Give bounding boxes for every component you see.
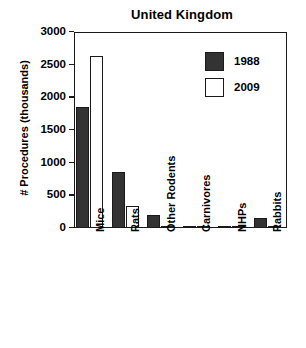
y-tick-label: 0: [60, 220, 66, 235]
bar-rabbits-1988: [254, 218, 267, 228]
y-axis-label: # Procedures (thousands): [18, 28, 30, 228]
x-tick-label-nhps: NHPs: [237, 203, 248, 232]
x-tick-label-other-rodents: Other Rodents: [166, 156, 177, 232]
chart-title: United Kingdom: [76, 8, 288, 22]
x-tick-label-rabbits: Rabbits: [272, 192, 283, 232]
legend-item-1988: 1988: [205, 48, 260, 74]
bar-nhps-1988: [218, 226, 231, 228]
chart-legend: 19882009: [205, 48, 260, 100]
x-tick-label-carnivores: Carnivores: [201, 175, 212, 232]
y-tick-label: 1500: [40, 122, 66, 137]
legend-swatch-2009: [205, 78, 224, 97]
y-tick-label: 1000: [40, 155, 66, 170]
bar-chart-figure: United Kingdom # Procedures (thousands) …: [0, 0, 306, 348]
y-tick-label: 3000: [40, 24, 66, 39]
y-tick-label: 2000: [40, 89, 66, 104]
x-tick-label-mice: Mice: [95, 208, 106, 232]
bar-other-rodents-1988: [147, 215, 160, 228]
bar-rats-1988: [112, 172, 125, 228]
legend-item-2009: 2009: [205, 74, 260, 100]
x-tick-label-rats: Rats: [130, 208, 141, 232]
legend-label-1988: 1988: [234, 55, 260, 67]
bar-carnivores-1988: [183, 226, 196, 228]
bar-mice-2009: [90, 56, 103, 228]
legend-swatch-1988: [205, 52, 224, 71]
y-tick-label: 500: [47, 187, 66, 202]
bar-mice-1988: [76, 107, 89, 228]
legend-label-2009: 2009: [234, 81, 260, 93]
y-tick-label: 2500: [40, 57, 66, 72]
